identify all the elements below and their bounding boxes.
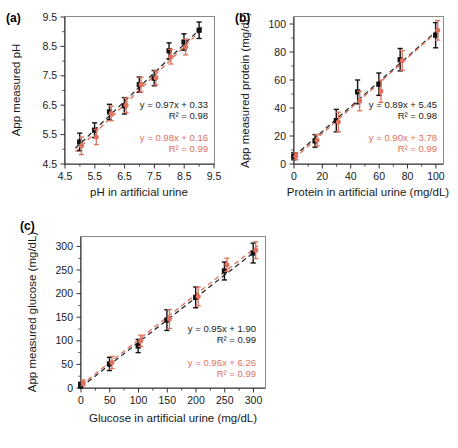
panel-b-ylabel: App measured protein (mg/dL) xyxy=(239,12,251,168)
panel-b-y-axis: 020406080100 xyxy=(268,17,294,170)
x-tick-label: 20 xyxy=(317,170,329,182)
x-tick-label: 250 xyxy=(216,394,234,406)
panel-a-ylabel: App measured pH xyxy=(10,44,22,137)
panel-c-plot: 050100150200250300 050100150200250300 y … xyxy=(55,237,265,407)
panel-b-plot: 020406080100 020406080100 y = 0.89x + 5.… xyxy=(268,17,444,183)
panel-a-tag: (a) xyxy=(6,11,21,25)
y-tick-label: 250 xyxy=(55,264,73,276)
y-tick-label: 200 xyxy=(55,287,73,299)
annotation: y = 0.90x + 3.78 xyxy=(369,132,437,143)
x-tick-label: 6.5 xyxy=(117,170,132,182)
annotation: R² = 0.99 xyxy=(398,143,437,154)
panel-c-y-axis: 050100150200250300 xyxy=(55,237,81,394)
x-tick-label: 4.5 xyxy=(58,170,73,182)
panel-c: (c) 050100150200250300 05010015020025030… xyxy=(18,216,308,448)
panel-b-x-axis: 020406080100 xyxy=(291,164,445,182)
x-tick-label: 50 xyxy=(104,394,116,406)
annotation: y = 0.98x + 0.16 xyxy=(140,132,208,143)
annotation: R² = 0.98 xyxy=(169,110,208,121)
data-point-extra xyxy=(197,22,202,38)
x-tick-label: 100 xyxy=(427,170,445,182)
panel-b-xlabel: Protein in artificial urine (mg/dL) xyxy=(287,186,450,198)
panel-c-x-axis: 050100150200250300 xyxy=(78,388,265,406)
x-tick-label: 80 xyxy=(402,170,414,182)
annotation: y = 0.95x + 1.90 xyxy=(188,323,256,334)
panel-a-y-axis: 4.55.56.57.58.59.5 xyxy=(42,11,65,170)
x-tick-label: 40 xyxy=(345,170,357,182)
y-tick-label: 150 xyxy=(55,311,73,323)
annotation: R² = 0.99 xyxy=(169,143,208,154)
data-point-black xyxy=(251,243,256,263)
y-tick-label: 100 xyxy=(55,334,73,346)
annotation: R² = 0.99 xyxy=(217,368,256,379)
y-tick-label: 6.5 xyxy=(42,99,57,111)
y-tick-label: 100 xyxy=(268,18,286,30)
y-tick-label: 9.5 xyxy=(42,11,57,23)
x-tick-label: 150 xyxy=(158,394,176,406)
panel-a-plot: 4.55.56.57.58.59.5 4.55.56.57.58.59.5 y … xyxy=(42,11,221,182)
y-tick-label: 80 xyxy=(274,46,286,58)
x-tick-label: 300 xyxy=(245,394,263,406)
x-tick-label: 0 xyxy=(291,170,297,182)
annotation: y = 0.97x + 0.33 xyxy=(140,99,208,110)
annotation: R² = 0.98 xyxy=(398,110,437,121)
x-tick-label: 7.5 xyxy=(147,170,162,182)
x-tick-label: 8.5 xyxy=(177,170,192,182)
y-tick-label: 300 xyxy=(55,240,73,252)
data-point-red xyxy=(109,356,114,368)
panel-a-x-axis: 4.55.56.57.58.59.5 xyxy=(58,164,222,182)
data-point-red xyxy=(253,242,258,259)
annotation: R² = 0.99 xyxy=(217,334,256,345)
y-tick-label: 4.5 xyxy=(42,158,57,170)
x-tick-label: 60 xyxy=(373,170,385,182)
x-tick-label: 0 xyxy=(78,394,84,406)
panel-c-tag: (c) xyxy=(20,219,35,233)
x-tick-label: 100 xyxy=(130,394,148,406)
x-tick-label: 200 xyxy=(187,394,205,406)
data-point-red xyxy=(196,287,201,306)
y-tick-label: 50 xyxy=(61,358,73,370)
panel-b-annotations: y = 0.89x + 5.45R² = 0.98y = 0.90x + 3.7… xyxy=(369,99,437,154)
annotation: y = 0.96x + 6.26 xyxy=(188,357,256,368)
x-tick-label: 5.5 xyxy=(87,170,102,182)
y-tick-label: 8.5 xyxy=(42,40,57,52)
panel-c-ylabel: App measured glucose (mg/dL) xyxy=(26,232,38,393)
panel-a-xlabel: pH in artificial urine xyxy=(90,186,188,198)
panel-c-annotations: y = 0.95x + 1.90R² = 0.99y = 0.96x + 6.2… xyxy=(188,323,256,379)
y-tick-label: 0 xyxy=(67,382,73,394)
panel-c-xlabel: Glucose in artificial urine (mg/dL) xyxy=(89,412,257,424)
annotation: y = 0.89x + 5.45 xyxy=(369,99,437,110)
y-tick-label: 60 xyxy=(274,74,286,86)
data-point-red xyxy=(167,310,172,329)
y-tick-label: 7.5 xyxy=(42,69,57,81)
x-tick-label: 9.5 xyxy=(207,170,222,182)
y-tick-label: 20 xyxy=(274,130,286,142)
y-tick-label: 40 xyxy=(274,102,286,114)
panel-a-annotations: y = 0.97x + 0.33R² = 0.98y = 0.98x + 0.1… xyxy=(140,99,208,154)
y-tick-label: 0 xyxy=(280,158,286,170)
y-tick-label: 5.5 xyxy=(42,128,57,140)
panel-a: (a) 4.55.56.57.58.59.5 4.55.56.57.58.59.… xyxy=(0,0,229,219)
panel-b: (b) 020406080100 020406080100 y = 0.89x … xyxy=(229,0,458,219)
